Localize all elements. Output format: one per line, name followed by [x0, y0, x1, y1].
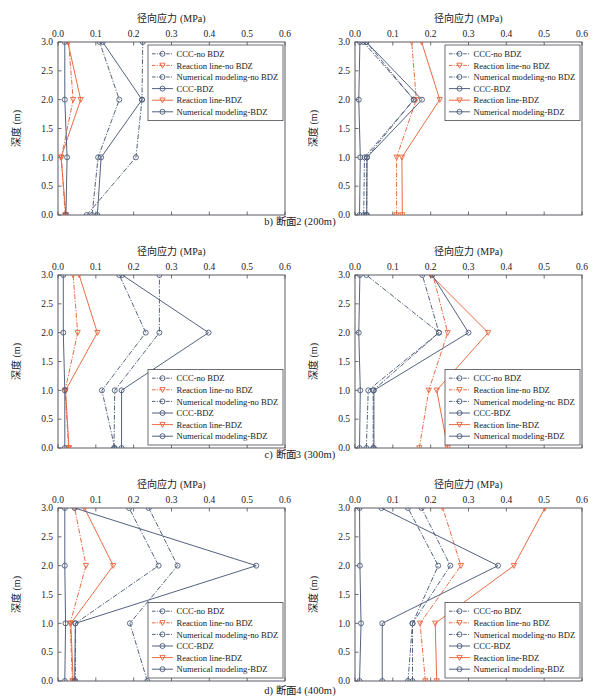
- series-marker-2: [156, 563, 161, 568]
- legend-label-5: Numerical modeling-BDZ: [474, 431, 565, 441]
- x-tick-label: 0.4: [203, 29, 215, 39]
- y-tick-label: 1.5: [41, 357, 53, 367]
- x-axis-title: 径向应力 (MPa): [434, 12, 502, 25]
- series-marker-2: [143, 330, 148, 335]
- x-tick-label: 0.6: [279, 495, 291, 505]
- y-tick-label: 1.0: [41, 153, 53, 163]
- y-axis-title: 深度 (m): [10, 343, 23, 380]
- legend-label-1: Reaction line-no BDZ: [474, 61, 550, 71]
- y-tick-label: 1.5: [338, 124, 350, 134]
- y-tick-label: 2.5: [41, 66, 53, 76]
- series-line-1: [397, 42, 417, 215]
- legend-label-5: Numerical modeling-BDZ: [474, 664, 565, 674]
- legend-label-0: CCC-no BDZ: [177, 49, 225, 59]
- x-tick-label: 0.1: [90, 495, 102, 505]
- legend-label-1: Reaction line-no BDZ: [177, 385, 253, 395]
- panel-d-right: 径向应力 (MPa)0.00.10.20.30.40.50.60.00.51.0…: [297, 466, 600, 699]
- y-tick-label: 0.5: [338, 181, 350, 191]
- legend-label-4: Reaction line-BDZ: [177, 653, 243, 663]
- series-line-3: [65, 508, 66, 681]
- panel-d-left: 径向应力 (MPa)0.00.10.20.30.40.50.60.00.51.0…: [0, 466, 303, 699]
- y-tick-label: 2.0: [338, 328, 350, 338]
- y-tick-label: 2.5: [338, 532, 350, 542]
- legend-label-0: CCC-no BDZ: [474, 373, 522, 383]
- x-tick-label: 0.5: [241, 262, 253, 272]
- legend: CCC-no BDZReaction line-no BDZNumerical …: [445, 369, 580, 445]
- y-tick-label: 3.0: [41, 503, 53, 513]
- panel-c-right: 径向应力 (MPa)0.00.10.20.30.40.50.60.00.51.0…: [297, 233, 600, 466]
- legend-label-0: CCC-no BDZ: [177, 373, 225, 383]
- y-tick-label: 2.0: [41, 561, 53, 571]
- legend-label-1: Reaction line-no BDZ: [474, 618, 550, 628]
- y-tick-label: 2.0: [338, 95, 350, 105]
- series-line-4: [402, 42, 440, 215]
- series-group: [356, 40, 442, 218]
- x-tick-label: 0.5: [241, 495, 253, 505]
- series-line-0: [366, 275, 439, 448]
- panel-b-right: 径向应力 (MPa)0.00.10.20.30.40.50.60.00.51.0…: [297, 0, 600, 233]
- x-tick-label: 0.4: [500, 495, 512, 505]
- series-line-3: [97, 42, 142, 215]
- legend-label-0: CCC-no BDZ: [474, 606, 522, 616]
- x-tick-label: 0.2: [425, 262, 437, 272]
- y-tick-label: 2.5: [41, 532, 53, 542]
- y-axis-title: 深度 (m): [10, 110, 23, 147]
- x-tick-label: 0.0: [349, 262, 361, 272]
- y-axis-title: 深度 (m): [307, 343, 320, 380]
- x-tick-label: 0.1: [387, 262, 399, 272]
- y-tick-label: 1.0: [41, 386, 53, 396]
- y-tick-label: 0.5: [338, 414, 350, 424]
- x-tick-label: 0.6: [576, 262, 588, 272]
- x-tick-label: 0.4: [203, 495, 215, 505]
- legend: CCC-no BDZReaction line-no BDZNumerical …: [445, 602, 580, 678]
- legend-label-4: Reaction line-BDZ: [177, 95, 243, 105]
- x-tick-label: 0.3: [463, 262, 475, 272]
- x-axis-title: 径向应力 (MPa): [137, 12, 205, 25]
- x-tick-label: 0.3: [166, 262, 178, 272]
- x-tick-label: 0.5: [538, 262, 550, 272]
- x-tick-label: 0.5: [538, 29, 550, 39]
- panel-b-left: 径向应力 (MPa)0.00.10.20.30.40.50.60.00.51.0…: [0, 0, 303, 233]
- figure-root: 径向应力 (MPa)0.00.10.20.30.40.50.60.00.51.0…: [0, 0, 600, 699]
- panel-c-left: 径向应力 (MPa)0.00.10.20.30.40.50.60.00.51.0…: [0, 233, 303, 466]
- y-axis-title: 深度 (m): [307, 576, 320, 613]
- series-line-5: [65, 42, 67, 215]
- legend: CCC-no BDZReaction line-no BDZNumerical …: [445, 45, 580, 121]
- legend-label-3: CCC-BDZ: [177, 408, 214, 418]
- x-axis-title: 径向应力 (MPa): [434, 478, 502, 491]
- x-tick-label: 0.3: [166, 495, 178, 505]
- legend-label-1: Reaction line-no BDZ: [177, 61, 253, 71]
- y-tick-label: 1.5: [338, 357, 350, 367]
- series-line-2: [92, 42, 119, 215]
- legend-label-1: Reaction line-no BDZ: [474, 385, 550, 395]
- legend-label-4: Reaction line-BDZ: [474, 95, 540, 105]
- legend-label-2: Numerical modeling-no BDZ: [177, 72, 279, 82]
- y-tick-label: 2.0: [41, 328, 53, 338]
- legend-label-0: CCC-no BDZ: [474, 49, 522, 59]
- chart-panel-b-right: 径向应力 (MPa)0.00.10.20.30.40.50.60.00.51.0…: [297, 0, 600, 233]
- panel-row-c: 径向应力 (MPa)0.00.10.20.30.40.50.60.00.51.0…: [0, 233, 600, 466]
- series-line-2: [373, 275, 439, 448]
- x-tick-label: 0.0: [52, 495, 64, 505]
- legend-label-3: CCC-BDZ: [474, 84, 511, 94]
- y-tick-label: 1.5: [41, 590, 53, 600]
- x-tick-label: 0.1: [90, 262, 102, 272]
- legend-label-5: Numerical modeling-BDZ: [177, 107, 268, 117]
- legend-label-3: CCC-BDZ: [177, 84, 214, 94]
- y-tick-label: 0.5: [41, 181, 53, 191]
- x-tick-label: 0.4: [500, 262, 512, 272]
- x-tick-label: 0.4: [203, 262, 215, 272]
- y-tick-label: 2.0: [338, 561, 350, 571]
- x-tick-label: 0.2: [128, 495, 140, 505]
- legend: CCC-no BDZReaction line-no BDZNumerical …: [148, 369, 283, 445]
- chart-panel-d-right: 径向应力 (MPa)0.00.10.20.30.40.50.60.00.51.0…: [297, 466, 600, 699]
- y-axis-title: 深度 (m): [307, 110, 320, 147]
- y-tick-label: 1.5: [338, 590, 350, 600]
- legend-label-2: Numerical modeling-no BDZ: [177, 630, 279, 640]
- legend-label-1: Reaction line-no BDZ: [177, 618, 253, 628]
- x-tick-label: 0.1: [387, 29, 399, 39]
- series-line-2: [102, 275, 146, 448]
- y-tick-label: 1.0: [338, 386, 350, 396]
- y-tick-label: 2.0: [41, 95, 53, 105]
- x-tick-label: 0.0: [349, 495, 361, 505]
